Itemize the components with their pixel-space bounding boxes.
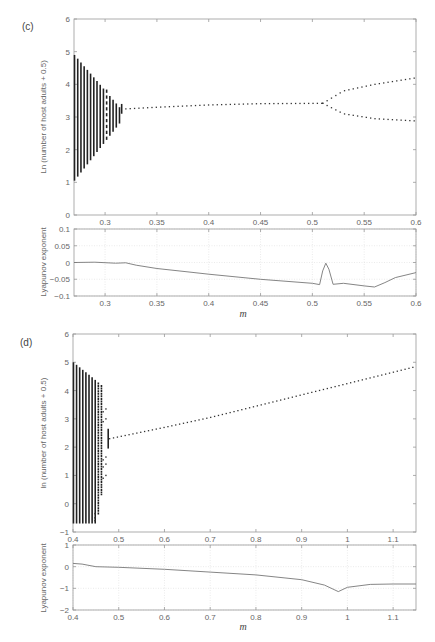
- data-point: [218, 415, 219, 416]
- data-point: [357, 87, 358, 88]
- data-point: [245, 408, 246, 409]
- y-tick-label: 5: [65, 358, 70, 367]
- data-point: [202, 418, 203, 419]
- x-tick-label: 1.1: [388, 613, 400, 622]
- data-point: [269, 103, 270, 104]
- data-point: [408, 368, 409, 369]
- data-point: [331, 97, 332, 98]
- data-point: [282, 103, 283, 104]
- x-tick-label: 0.9: [296, 613, 308, 622]
- plot-d-lyapunov: 0.40.50.60.70.80.911.110−1−2: [60, 541, 416, 622]
- data-point: [109, 438, 110, 439]
- data-point: [204, 105, 205, 106]
- y-tick-label: 1: [66, 178, 71, 187]
- data-point: [304, 103, 305, 104]
- data-point: [280, 399, 281, 400]
- data-point: [317, 103, 318, 104]
- data-point: [212, 104, 213, 105]
- data-point: [374, 118, 375, 119]
- data-point: [94, 520, 95, 521]
- data-point: [346, 383, 347, 384]
- data-point: [366, 117, 367, 118]
- y-tick-label: 6: [66, 15, 71, 24]
- data-point: [340, 111, 341, 112]
- data-point: [387, 119, 388, 120]
- data-point: [241, 409, 242, 410]
- data-point: [361, 86, 362, 87]
- data-point: [148, 430, 149, 431]
- plot-c-lyapunov: 0.30.350.40.450.50.550.60.10.050−0.05−0.…: [50, 225, 422, 308]
- data-point: [335, 109, 336, 110]
- data-point: [392, 119, 393, 120]
- x-tick-label: 0.6: [410, 218, 422, 227]
- y-tick-label: 6: [65, 330, 70, 339]
- data-point: [385, 373, 386, 374]
- x-tick-label: 0.9: [296, 535, 308, 544]
- data-point: [195, 420, 196, 421]
- y-tick-label: −1: [60, 584, 70, 593]
- data-point: [260, 103, 261, 104]
- data-point: [105, 418, 106, 419]
- data-point: [331, 387, 332, 388]
- data-point: [412, 367, 413, 368]
- data-point: [278, 103, 279, 104]
- data-point: [397, 371, 398, 372]
- data-point: [366, 378, 367, 379]
- x-tick-label: 0.7: [205, 535, 217, 544]
- data-point: [136, 432, 137, 433]
- data-point: [160, 428, 161, 429]
- data-point: [335, 95, 336, 96]
- panel-label-d: (d): [20, 337, 32, 348]
- data-point: [379, 83, 380, 84]
- d-main-ylabel: ln (number of host adults + 0.5): [39, 377, 48, 488]
- data-point: [264, 403, 265, 404]
- c-main-ylabel: Ln (number of host adults + 0.5): [39, 60, 48, 174]
- plot-c-bifurcation: 0.30.350.40.450.50.550.60123456: [66, 15, 423, 227]
- c-lyap-ylabel: Lyapunov exponent: [39, 226, 48, 296]
- data-point: [191, 421, 192, 422]
- axes-frame: [74, 19, 416, 215]
- data-point: [113, 437, 114, 438]
- data-point: [284, 398, 285, 399]
- data-point: [354, 381, 355, 382]
- data-point: [217, 104, 218, 105]
- x-tick-label: 0.6: [159, 535, 171, 544]
- data-point: [94, 517, 95, 518]
- data-point: [105, 475, 106, 476]
- data-point: [206, 418, 207, 419]
- data-point: [125, 108, 126, 109]
- data-point: [243, 103, 244, 104]
- data-point: [340, 92, 341, 93]
- data-point: [295, 103, 296, 104]
- data-point: [171, 425, 172, 426]
- data-point: [128, 434, 129, 435]
- data-point: [344, 113, 345, 114]
- data-point: [237, 410, 238, 411]
- data-point: [353, 88, 354, 89]
- x-tick-label: 0.4: [203, 218, 215, 227]
- data-point: [348, 89, 349, 90]
- data-point: [334, 386, 335, 387]
- data-point: [229, 412, 230, 413]
- data-point: [182, 105, 183, 106]
- data-point: [405, 120, 406, 121]
- lyapunov-curve: [74, 262, 416, 287]
- data-point: [414, 120, 415, 121]
- data-point: [102, 421, 103, 422]
- data-point: [225, 104, 226, 105]
- data-point: [315, 391, 316, 392]
- data-point: [230, 104, 231, 105]
- data-point: [130, 108, 131, 109]
- data-point: [350, 382, 351, 383]
- y-tick-label: 4: [65, 387, 70, 396]
- x-tick-label: 0.5: [307, 218, 319, 227]
- x-tick-label: 0.5: [307, 299, 319, 308]
- data-point: [132, 433, 133, 434]
- y-tick-label: 0.05: [54, 242, 70, 251]
- data-point: [299, 395, 300, 396]
- data-point: [173, 106, 174, 107]
- data-point: [348, 114, 349, 115]
- x-tick-label: 1.1: [388, 535, 400, 544]
- data-point: [353, 115, 354, 116]
- x-tick-label: 0.4: [203, 299, 215, 308]
